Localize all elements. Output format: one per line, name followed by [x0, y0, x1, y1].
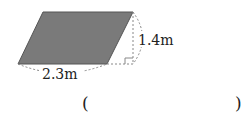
parallelogram-diagram: 2.3m 1.4m [0, 0, 251, 124]
height-label: 1.4m [138, 32, 174, 48]
parallelogram [18, 12, 133, 64]
answer-close-paren: ) [235, 93, 242, 113]
base-label: 2.3m [42, 66, 78, 82]
right-angle-mark [125, 58, 133, 64]
answer-open-paren: ( [82, 93, 89, 113]
